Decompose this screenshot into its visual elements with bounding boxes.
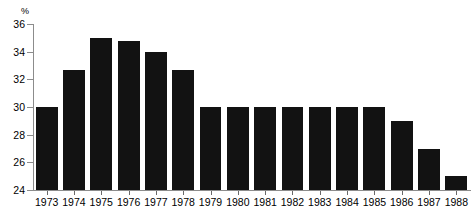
x-tick-label: 1978	[170, 196, 197, 208]
y-tick-label: 32	[0, 73, 25, 85]
x-tick-mark	[129, 191, 130, 195]
x-tick-mark	[456, 191, 457, 195]
chart-title: ...the late income tax	[20, 0, 116, 2]
x-tick-label: 1985	[361, 196, 388, 208]
x-tick-label: 1984	[333, 196, 360, 208]
x-tick-mark	[292, 191, 293, 195]
x-tick-label: 1975	[88, 196, 115, 208]
x-tick-mark	[156, 191, 157, 195]
bar	[254, 107, 276, 190]
x-tick-mark	[402, 191, 403, 195]
bar	[145, 52, 167, 190]
bar	[90, 38, 112, 190]
x-axis-line	[33, 190, 471, 191]
x-tick-mark	[47, 191, 48, 195]
bar	[309, 107, 331, 190]
bar	[63, 70, 85, 190]
bar	[227, 107, 249, 190]
bar	[172, 70, 194, 190]
y-tick-label: 34	[0, 46, 25, 58]
x-tick-mark	[265, 191, 266, 195]
bar-chart-figure: ...the late income tax % 24262830323436 …	[0, 0, 472, 214]
x-tick-label: 1981	[252, 196, 279, 208]
x-tick-mark	[183, 191, 184, 195]
x-tick-label: 1977	[142, 196, 169, 208]
x-tick-mark	[211, 191, 212, 195]
x-tick-label: 1988	[443, 196, 470, 208]
x-tick-label: 1982	[279, 196, 306, 208]
bar	[363, 107, 385, 190]
x-tick-label: 1976	[115, 196, 142, 208]
x-tick-mark	[347, 191, 348, 195]
y-tick-label: 24	[0, 184, 25, 196]
x-tick-mark	[238, 191, 239, 195]
x-tick-label: 1986	[388, 196, 415, 208]
x-tick-label: 1987	[415, 196, 442, 208]
y-tick-label: 30	[0, 101, 25, 113]
x-tick-label: 1983	[306, 196, 333, 208]
bar	[200, 107, 222, 190]
y-tick-label: 28	[0, 129, 25, 141]
x-tick-label: 1973	[33, 196, 60, 208]
y-tick-mark	[27, 190, 33, 191]
bar	[418, 149, 440, 191]
bar	[282, 107, 304, 190]
x-tick-label: 1974	[60, 196, 87, 208]
x-tick-label: 1979	[197, 196, 224, 208]
x-tick-mark	[101, 191, 102, 195]
x-tick-label: 1980	[224, 196, 251, 208]
bar	[36, 107, 58, 190]
x-tick-mark	[429, 191, 430, 195]
x-tick-mark	[374, 191, 375, 195]
bar	[445, 176, 467, 190]
bar	[336, 107, 358, 190]
plot-area	[33, 24, 470, 190]
bar	[391, 121, 413, 190]
x-tick-mark	[74, 191, 75, 195]
y-axis-unit-label: %	[21, 6, 29, 16]
y-tick-label: 26	[0, 156, 25, 168]
bar	[118, 41, 140, 190]
x-tick-mark	[320, 191, 321, 195]
y-tick-label: 36	[0, 18, 25, 30]
